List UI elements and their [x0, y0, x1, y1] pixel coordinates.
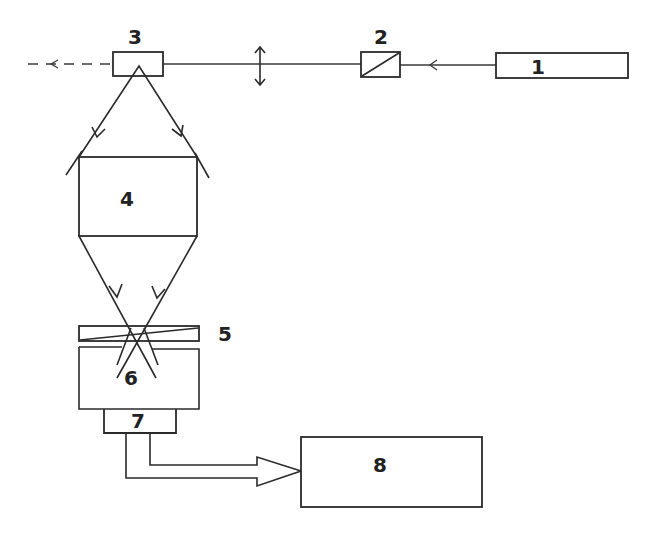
diverging-beams — [79, 66, 197, 157]
dashed-exit-beam — [28, 60, 113, 68]
converging-beams — [79, 236, 197, 378]
component-7: 7 — [104, 409, 176, 433]
component-8: 8 — [301, 437, 482, 507]
label-2: 2 — [374, 25, 388, 49]
optical-diagram: 3 2 1 4 5 — [0, 0, 659, 535]
label-3: 3 — [128, 25, 142, 49]
label-4: 4 — [120, 187, 134, 211]
component-1: 1 — [496, 53, 628, 79]
component-4: 4 — [79, 157, 197, 236]
label-6: 6 — [124, 366, 138, 390]
lens-icon — [255, 47, 265, 85]
label-1: 1 — [531, 55, 545, 79]
label-8: 8 — [373, 453, 387, 477]
signal-arrow — [126, 433, 301, 486]
label-7: 7 — [131, 409, 145, 433]
label-5: 5 — [218, 322, 232, 346]
component-5: 5 — [79, 322, 232, 346]
component-2: 2 — [361, 25, 400, 77]
main-beam-line — [163, 60, 496, 70]
